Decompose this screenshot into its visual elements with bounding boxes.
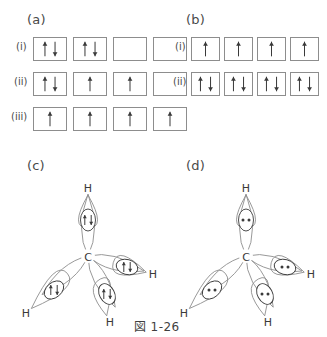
- electron-spins: [291, 38, 318, 60]
- spin-down-arrow: [53, 42, 58, 57]
- electron-pair-1: [239, 209, 254, 231]
- spin-down-arrow: [93, 42, 98, 57]
- electron-spins: [74, 108, 106, 130]
- orbital-box-b-1-2[interactable]: [224, 37, 253, 61]
- orbital-box-a-3-3[interactable]: [113, 107, 147, 131]
- spin-up-arrow: [264, 77, 269, 92]
- spin-up-arrow: [43, 77, 48, 92]
- spin-up-arrow: [128, 112, 133, 127]
- electron-spins: [114, 108, 146, 130]
- orbital-box-a-3-2[interactable]: [73, 107, 107, 131]
- electron-spins: [225, 73, 252, 95]
- orbital-box-a-1-1[interactable]: [33, 37, 67, 61]
- electron-dot: [267, 293, 270, 296]
- spin-down-arrow: [307, 77, 312, 92]
- electron-dot: [214, 289, 217, 292]
- pair-ellipse: [199, 277, 225, 303]
- orbital-box-b-1-1[interactable]: [191, 37, 220, 61]
- spin-up-arrow: [48, 112, 53, 127]
- spin-down-arrow: [241, 77, 246, 92]
- spin-down-arrow: [274, 77, 279, 92]
- row-label-a-1: (i): [16, 41, 27, 52]
- orbital-box-a-1-3[interactable]: [113, 37, 147, 61]
- row-label-b-1: (i): [175, 41, 186, 52]
- spin-up-arrow: [269, 42, 274, 57]
- electron-dot: [281, 266, 284, 269]
- atom-label-hydrogen-4: H: [180, 307, 188, 320]
- figure-1-26: (a)(i)(ii)(iii)(b)(i)(ii)(c)HHHHC(d)HHHH…: [0, 0, 327, 337]
- orbital-box-a-3-4[interactable]: [153, 107, 187, 131]
- atom-label-hydrogen-3: H: [264, 316, 272, 329]
- spin-down-arrow: [208, 77, 213, 92]
- electron-spins: [258, 73, 285, 95]
- electron-spins: [192, 73, 219, 95]
- electron-dot: [242, 219, 245, 222]
- atom-label-hydrogen-2: H: [307, 268, 315, 281]
- electron-dot: [208, 289, 211, 292]
- electron-spins: [154, 108, 186, 130]
- figure-caption: 図 1-26: [134, 317, 179, 334]
- orbital-box-b-2-2[interactable]: [224, 72, 253, 96]
- atom-label-hydrogen-4: H: [22, 307, 30, 320]
- electron-pair-3: [253, 281, 277, 307]
- atom-label-hydrogen-3: H: [106, 316, 114, 329]
- pair-ellipse: [81, 209, 96, 231]
- electron-spins: [34, 38, 66, 60]
- electron-spins: [114, 73, 146, 95]
- electron-pair-1: [81, 209, 96, 231]
- spin-up-arrow: [236, 42, 241, 57]
- electron-spins: [192, 38, 219, 60]
- row-label-b-2: (ii): [173, 76, 186, 87]
- panel-label-b: (b): [186, 12, 205, 27]
- spin-up-arrow: [83, 42, 88, 57]
- electron-spins: [225, 38, 252, 60]
- spin-up-arrow: [198, 77, 203, 92]
- spin-up-arrow: [203, 42, 208, 57]
- row-label-a-3: (iii): [11, 111, 27, 122]
- molecule-diagram-c: HHHHC: [10, 170, 170, 335]
- orbital-box-b-1-4[interactable]: [290, 37, 319, 61]
- atom-label-hydrogen-2: H: [149, 268, 157, 281]
- orbital-box-a-2-3[interactable]: [113, 72, 147, 96]
- panel-label-a: (a): [27, 12, 46, 27]
- electron-dot: [261, 293, 264, 296]
- spin-up-arrow: [88, 112, 93, 127]
- electron-spins: [74, 73, 106, 95]
- atom-label-hydrogen-1: H: [84, 182, 92, 195]
- electron-spins: [291, 73, 318, 95]
- orbital-box-a-1-2[interactable]: [73, 37, 107, 61]
- orbital-box-b-2-3[interactable]: [257, 72, 286, 96]
- spin-up-arrow: [231, 77, 236, 92]
- orbital-box-a-3-1[interactable]: [33, 107, 67, 131]
- spin-up-arrow: [297, 77, 302, 92]
- electron-pair-3: [95, 281, 119, 307]
- electron-spins: [34, 73, 66, 95]
- orbital-box-b-2-1[interactable]: [191, 72, 220, 96]
- spin-up-arrow: [43, 42, 48, 57]
- spin-up-arrow: [168, 112, 173, 127]
- orbital-box-b-1-3[interactable]: [257, 37, 286, 61]
- pair-ellipse: [239, 209, 254, 231]
- spin-up-arrow: [128, 77, 133, 92]
- electron-spins: [258, 38, 285, 60]
- atom-label-hydrogen-1: H: [242, 182, 250, 195]
- electron-pair-4: [199, 277, 225, 303]
- orbital-box-a-2-2[interactable]: [73, 72, 107, 96]
- electron-spins: [34, 108, 66, 130]
- atom-label-carbon: C: [84, 251, 92, 264]
- electron-pair-4: [41, 277, 67, 303]
- pair-ellipse: [95, 281, 119, 307]
- orbital-box-b-2-4[interactable]: [290, 72, 319, 96]
- pair-ellipse: [253, 281, 277, 307]
- spin-down-arrow: [53, 77, 58, 92]
- electron-dot: [287, 266, 290, 269]
- electron-dot: [248, 219, 251, 222]
- electron-spins: [114, 38, 146, 60]
- spin-up-arrow: [302, 42, 307, 57]
- spin-up-arrow: [88, 77, 93, 92]
- atom-label-carbon: C: [242, 251, 250, 264]
- orbital-box-a-2-1[interactable]: [33, 72, 67, 96]
- row-label-a-2: (ii): [14, 76, 27, 87]
- pair-ellipse: [41, 277, 67, 303]
- electron-spins: [74, 38, 106, 60]
